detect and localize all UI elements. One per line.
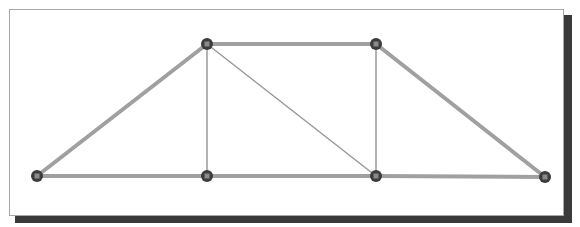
truss-node (370, 38, 382, 50)
truss-node (31, 170, 43, 182)
truss-member (376, 176, 545, 177)
truss-node (370, 170, 382, 182)
truss-diagram (0, 0, 580, 227)
truss-members (37, 44, 545, 177)
truss-member (207, 44, 376, 176)
truss-node (201, 38, 213, 50)
truss-member (376, 44, 545, 177)
truss-member (37, 44, 207, 176)
truss-node (201, 170, 213, 182)
truss-node (539, 171, 551, 183)
